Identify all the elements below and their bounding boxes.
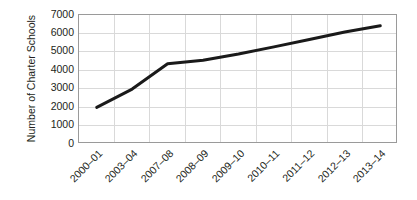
y-tick-label: 7000 (38, 9, 74, 20)
x-tick-label: 2009–10 (206, 147, 246, 187)
y-tick-label: 0 (38, 138, 74, 149)
x-tick-label-text: 2003–04 (102, 147, 139, 184)
line-chart: Number of Charter Schools 01000200030004… (0, 0, 417, 200)
x-tick-label-text: 2000–01 (67, 147, 104, 184)
x-tick-label: 2011–12 (277, 147, 317, 187)
y-tick-label: 1000 (38, 119, 74, 130)
x-tick-label: 2003–04 (100, 147, 140, 187)
x-tick-label-text: 2011–12 (280, 147, 317, 184)
x-tick-label-text: 2007–08 (138, 147, 175, 184)
y-tick-label: 6000 (38, 27, 74, 38)
x-tick-label-text: 2012–13 (315, 147, 352, 184)
x-tick-label: 2013–14 (348, 147, 388, 187)
y-tick-label: 2000 (38, 101, 74, 112)
y-axis-tick-labels: 01000200030004000500060007000 (38, 8, 74, 149)
x-tick-label-text: 2009–10 (209, 147, 246, 184)
x-tick-label: 2007–08 (135, 147, 175, 187)
x-tick-label-text: 2013–14 (350, 147, 387, 184)
x-tick-label: 2000–01 (65, 147, 105, 187)
x-axis-tick-labels: 2000–012003–042007–082008–092009–102010–… (78, 143, 397, 200)
x-tick-label: 2012–13 (313, 147, 353, 187)
y-tick-label: 4000 (38, 64, 74, 75)
plot-area (78, 14, 397, 143)
x-tick-label-text: 2008–09 (173, 147, 210, 184)
y-tick-label: 5000 (38, 45, 74, 56)
x-tick-label-text: 2010–11 (245, 147, 282, 184)
x-tick-label: 2008–09 (171, 147, 211, 187)
y-tick-label: 3000 (38, 82, 74, 93)
series-line-charter-schools (79, 15, 397, 143)
x-tick-label: 2010–11 (242, 147, 282, 187)
